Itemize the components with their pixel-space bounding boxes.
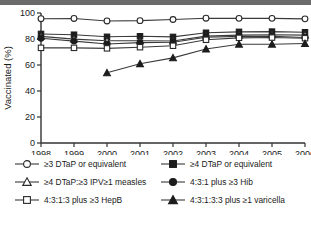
marker-open-circle <box>38 16 44 22</box>
filled-triangle-icon <box>160 193 186 207</box>
legend-label: ≥4 DTaP:≥3 IPV≥1 measles <box>44 178 146 186</box>
legend-item-hib: 4:3:1 plus ≥3 Hib <box>155 175 311 189</box>
marker-open-square <box>104 46 109 51</box>
marker-open-square <box>170 43 175 48</box>
legend-item-varicella: 4:3:1:3:3 plus ≥1 varicella <box>155 193 311 207</box>
legend-label: 4:3:1 plus ≥3 Hib <box>190 178 253 186</box>
filled-circle-icon <box>160 175 186 189</box>
legend-item-hepb: 4:3:1:3 plus ≥3 HepB <box>0 193 155 207</box>
chart-legend: ≥3 DTaP or equivalent ≥4 DTaP or equival… <box>0 155 311 246</box>
y-tick-label: 40 <box>25 86 35 96</box>
open-square-icon <box>14 193 40 207</box>
marker-open-circle <box>203 15 209 21</box>
plot-area: 0204060801001998199920002001200220032004… <box>0 5 311 155</box>
legend-item-dtap4: ≥4 DTaP or equivalent <box>155 157 311 171</box>
marker-open-circle <box>137 18 143 24</box>
y-tick-label: 60 <box>25 60 35 70</box>
legend-label: ≥4 DTaP or equivalent <box>190 160 272 168</box>
marker-open-square <box>203 37 208 42</box>
y-axis-title: Vaccinated (%) <box>2 46 13 110</box>
marker-filled-circle <box>38 35 44 41</box>
y-tick-label: 0 <box>30 138 35 148</box>
vaccination-coverage-chart: 0204060801001998199920002001200220032004… <box>0 5 311 246</box>
marker-open-square <box>71 45 76 50</box>
marker-open-circle <box>236 15 242 21</box>
marker-open-square <box>137 44 142 49</box>
legend-row: 4:3:1:3 plus ≥3 HepB 4:3:1:3:3 plus ≥1 v… <box>0 191 311 209</box>
y-tick-label: 20 <box>25 112 35 122</box>
chart-svg: 0204060801001998199920002001200220032004… <box>0 5 311 155</box>
marker-open-circle <box>269 15 275 21</box>
open-circle-icon <box>14 157 40 171</box>
marker-open-square <box>269 35 274 40</box>
legend-item-dtap3: ≥3 DTaP or equivalent <box>0 157 155 171</box>
marker-open-circle <box>170 17 176 23</box>
marker-open-square <box>38 45 43 50</box>
legend-label: 4:3:1:3 plus ≥3 HepB <box>44 196 122 204</box>
marker-open-circle <box>104 18 110 24</box>
legend-label: 4:3:1:3:3 plus ≥1 varicella <box>190 196 285 204</box>
legend-row: ≥4 DTaP:≥3 IPV≥1 measles 4:3:1 plus ≥3 H… <box>0 173 311 191</box>
legend-row: ≥3 DTaP or equivalent ≥4 DTaP or equival… <box>0 155 311 173</box>
legend-label: ≥3 DTaP or equivalent <box>44 160 126 168</box>
open-triangle-icon <box>14 175 40 189</box>
marker-open-circle <box>71 16 77 22</box>
y-tick-label: 100 <box>20 8 35 18</box>
marker-open-circle <box>302 16 308 22</box>
y-tick-label: 80 <box>25 34 35 44</box>
marker-filled-circle <box>71 38 77 44</box>
filled-square-icon <box>160 157 186 171</box>
legend-item-dtap-ipv-measles: ≥4 DTaP:≥3 IPV≥1 measles <box>0 175 155 189</box>
